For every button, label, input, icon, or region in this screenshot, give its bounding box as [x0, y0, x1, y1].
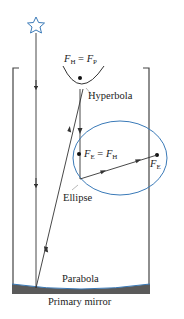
label-ellipse: Ellipse — [63, 193, 92, 204]
primary-mirror — [12, 284, 150, 294]
label-hyperbola-focus: FH = FP — [64, 54, 97, 66]
label-ellipse-near-focus: FE = FH — [84, 149, 117, 161]
reflected-ray-primary — [36, 89, 83, 288]
label-parabola: Parabola — [62, 274, 99, 285]
telescope-diagram: FH = FP Hyperbola FE = FH FE Ellipse Par… — [0, 0, 184, 319]
label-primary-mirror: Primary mirror — [48, 297, 111, 308]
reflected-ray-hyperbola — [78, 89, 83, 179]
label-ellipse-far-focus: FE — [150, 159, 161, 171]
label-hyperbola: Hyperbola — [88, 91, 132, 102]
star-icon — [28, 17, 45, 33]
